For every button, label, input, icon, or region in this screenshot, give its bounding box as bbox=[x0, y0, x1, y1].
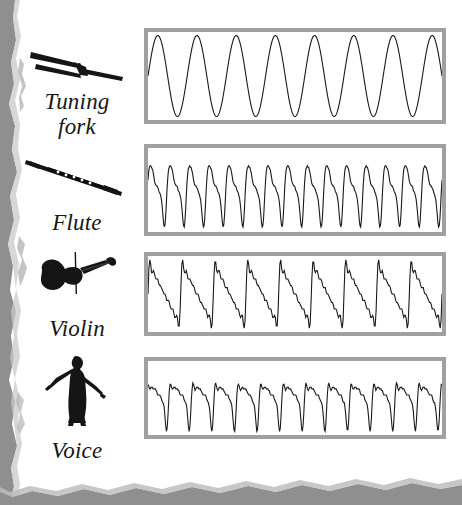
singer-icon bbox=[18, 352, 136, 428]
label-violin: Violin bbox=[18, 316, 136, 341]
label-flute-line1: Flute bbox=[18, 210, 136, 235]
waveform-panel-violin bbox=[144, 252, 446, 336]
waveform-tuning-fork bbox=[148, 32, 442, 120]
waveform-panel-voice bbox=[144, 357, 446, 439]
label-col-voice: Voice bbox=[18, 352, 136, 463]
label-col-violin: Violin bbox=[18, 250, 136, 341]
label-voice-line1: Voice bbox=[18, 438, 136, 463]
violin-icon bbox=[18, 250, 136, 302]
figure-page: Tuning fork bbox=[0, 0, 462, 505]
label-flute: Flute bbox=[18, 210, 136, 235]
label-tuning-fork: Tuning fork bbox=[18, 89, 136, 139]
waveform-panel-tuning-fork bbox=[144, 28, 446, 124]
waveform-voice bbox=[148, 361, 442, 435]
label-violin-line1: Violin bbox=[18, 316, 136, 341]
flute-icon bbox=[18, 146, 136, 198]
label-tuning-fork-line2: fork bbox=[18, 114, 136, 139]
waveform-panel-flute bbox=[144, 144, 446, 236]
label-col-tuning-fork: Tuning fork bbox=[18, 34, 136, 139]
waveform-flute bbox=[148, 148, 442, 232]
figure-content: Tuning fork bbox=[0, 0, 462, 505]
label-col-flute: Flute bbox=[18, 146, 136, 235]
label-tuning-fork-line1: Tuning bbox=[18, 89, 136, 114]
tuning-fork-icon bbox=[18, 34, 136, 86]
label-voice: Voice bbox=[18, 438, 136, 463]
waveform-violin bbox=[148, 256, 442, 332]
